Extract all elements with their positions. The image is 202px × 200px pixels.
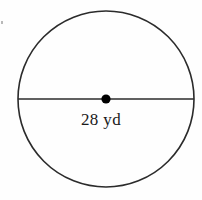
- center-point-dot: [101, 94, 110, 103]
- diameter-measurement-label: 28 yd: [0, 110, 202, 130]
- scan-artifact-speck: [1, 21, 3, 24]
- circle-diagram-svg: [0, 0, 202, 200]
- circle-diagram-figure: 28 yd: [0, 0, 202, 200]
